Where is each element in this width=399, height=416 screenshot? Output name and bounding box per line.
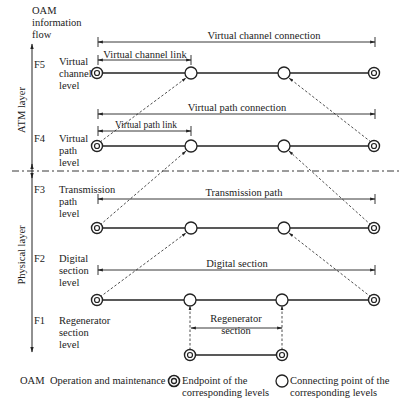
connecting-point-icon xyxy=(184,294,196,306)
connecting-point-icon xyxy=(278,222,290,234)
level-name-f3-line2: path xyxy=(59,196,78,207)
level-name-f2-line3: level xyxy=(59,277,79,288)
level-code-f4: F4 xyxy=(34,133,46,144)
flow-arrow-f2-f3-left xyxy=(100,233,186,297)
level-name-f2-line1: Digital xyxy=(59,253,88,264)
vp-link-label: Virtual path link xyxy=(115,120,177,130)
physical-layer-label: Physical layer xyxy=(16,225,27,285)
legend-connecting-point-line2: corresponding levels xyxy=(290,387,377,398)
endpoint-icon xyxy=(92,223,103,234)
oam-flow-title: OAM information flow xyxy=(32,5,82,40)
level-name-f1-line2: section xyxy=(59,327,89,338)
flow-arrow-f4-f5-right xyxy=(289,78,371,142)
endpoint-icon xyxy=(277,350,288,361)
level-name-f4: Virtual path level xyxy=(59,133,88,168)
transmission-path-label: Transmission path xyxy=(206,187,284,198)
endpoint-icon xyxy=(92,68,103,79)
digital-section-label: Digital section xyxy=(206,258,268,269)
level-name-f2-line2: section xyxy=(59,265,89,276)
connecting-point-icon xyxy=(185,140,197,152)
level-name-f1-line3: level xyxy=(59,339,79,350)
endpoint-icon xyxy=(369,68,380,79)
connecting-point-icon xyxy=(185,222,197,234)
oam-flow-title-line1: OAM xyxy=(32,5,57,16)
level-code-f5: F5 xyxy=(34,59,45,70)
vp-connection-label: Virtual path connection xyxy=(188,102,287,113)
level-code-f1: F1 xyxy=(34,315,45,326)
level-name-f4-line2: path xyxy=(59,145,78,156)
legend-connecting-point-icon xyxy=(276,375,288,387)
level-name-f3-line1: Transmission xyxy=(59,184,116,195)
legend: OAM Operation and maintenance Endpoint o… xyxy=(20,375,390,398)
level-name-f1-line1: Regenerator xyxy=(59,315,111,326)
endpoint-icon xyxy=(369,295,380,306)
flow-arrow-f2-f3-right xyxy=(289,233,371,297)
level-name-f3-line3: level xyxy=(59,208,79,219)
connecting-point-icon xyxy=(278,67,290,79)
flow-arrow-f4-f5-left xyxy=(100,78,186,142)
legend-abbrev-meaning: Operation and maintenance xyxy=(50,375,166,386)
legend-endpoint-line2: corresponding levels xyxy=(182,387,269,398)
vc-link-label: Virtual channel link xyxy=(103,49,187,60)
legend-endpoint-icon xyxy=(169,376,180,387)
oam-flow-title-line2: information xyxy=(32,17,82,28)
level-name-f5-line2: channel xyxy=(59,68,92,79)
level-name-f3: Transmission path level xyxy=(59,184,116,219)
level-name-f4-line1: Virtual xyxy=(59,133,88,144)
level-name-f1: Regenerator section level xyxy=(59,315,111,350)
oam-flow-diagram: OAM information flow ATM layer Physical … xyxy=(0,0,399,416)
regenerator-section-label-line2: section xyxy=(221,325,251,336)
endpoint-icon xyxy=(369,141,380,152)
level-name-f5: Virtual channel level xyxy=(59,56,92,91)
connecting-point-icon xyxy=(185,67,197,79)
regenerator-section-label-line1: Regenerator xyxy=(210,313,262,324)
oam-flow-title-line3: flow xyxy=(32,29,52,40)
endpoint-icon xyxy=(369,223,380,234)
connecting-point-icon xyxy=(278,140,290,152)
endpoint-icon xyxy=(92,295,103,306)
level-code-f3: F3 xyxy=(34,184,45,195)
legend-abbrev: OAM xyxy=(20,375,45,386)
legend-endpoint-line1: Endpoint of the xyxy=(182,375,248,386)
connecting-point-icon xyxy=(276,294,288,306)
level-name-f4-line3: level xyxy=(59,157,79,168)
legend-connecting-point-line1: Connecting point of the xyxy=(290,375,390,386)
level-name-f2: Digital section level xyxy=(59,253,89,288)
endpoint-icon xyxy=(92,141,103,152)
level-code-f2: F2 xyxy=(34,253,45,264)
level-name-f5-line1: Virtual xyxy=(59,56,88,67)
level-name-f5-line3: level xyxy=(59,80,79,91)
atm-layer-label: ATM layer xyxy=(16,87,27,133)
vc-connection-label: Virtual channel connection xyxy=(207,30,321,41)
endpoint-icon xyxy=(185,350,196,361)
flow-arrow-f3-f4-right xyxy=(289,151,371,225)
oam-flow-arrows xyxy=(100,78,371,350)
